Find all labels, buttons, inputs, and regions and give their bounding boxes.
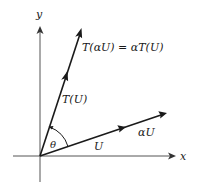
- x-axis-label: x: [180, 150, 187, 163]
- diagram-svg: y x T(αU) = αT(U) T(U) αU U θ: [0, 0, 197, 189]
- t-alpha-u-label: T(αU) = αT(U): [82, 41, 163, 54]
- t-u-label: T(U): [62, 93, 87, 106]
- alpha-u-label: αU: [138, 126, 155, 139]
- vector-t-alpha-u: [40, 28, 82, 156]
- u-label: U: [94, 140, 104, 153]
- theta-label: θ: [50, 139, 56, 150]
- y-axis-label: y: [35, 8, 43, 21]
- vector-transformation-diagram: y x T(αU) = αT(U) T(U) αU U θ: [0, 0, 197, 189]
